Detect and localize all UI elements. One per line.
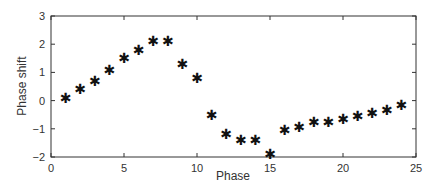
y-tick-label: 1	[39, 66, 45, 78]
x-tick-label: 15	[264, 162, 276, 174]
data-point-marker: ✱	[191, 70, 203, 86]
data-point-marker: ✱	[220, 126, 232, 142]
x-axis-label: Phase	[216, 169, 250, 183]
y-tick-label: 2	[39, 38, 45, 50]
data-point-marker: ✱	[147, 33, 159, 49]
x-tick-label: 20	[337, 162, 349, 174]
y-tick-label: −2	[32, 151, 45, 163]
data-point-marker: ✱	[308, 114, 320, 130]
x-tick-label: 10	[191, 162, 203, 174]
y-tick-label: 0	[39, 95, 45, 107]
data-point-marker: ✱	[133, 42, 145, 58]
data-point-marker: ✱	[89, 73, 101, 89]
data-point-marker: ✱	[396, 97, 408, 113]
data-point-marker: ✱	[264, 146, 276, 162]
data-point-marker: ✱	[206, 107, 218, 123]
y-tick-label: −1	[32, 123, 45, 135]
x-tick-label: 0	[48, 162, 54, 174]
data-point-marker: ✱	[177, 56, 189, 72]
plot-area	[51, 16, 416, 157]
axis-ticks: 0510152025−2−10123	[32, 10, 422, 174]
data-point-marker: ✱	[293, 119, 305, 135]
y-tick-label: 3	[39, 10, 45, 22]
data-points: ✱✱✱✱✱✱✱✱✱✱✱✱✱✱✱✱✱✱✱✱✱✱✱✱	[60, 33, 408, 162]
data-point-marker: ✱	[118, 50, 130, 66]
data-point-marker: ✱	[381, 102, 393, 118]
data-point-marker: ✱	[104, 62, 116, 78]
data-point-marker: ✱	[162, 33, 174, 49]
y-axis-label: Phase shift	[15, 56, 29, 116]
data-point-marker: ✱	[74, 81, 86, 97]
data-point-marker: ✱	[60, 90, 72, 106]
scatter-chart: 0510152025−2−10123 ✱✱✱✱✱✱✱✱✱✱✱✱✱✱✱✱✱✱✱✱✱…	[0, 0, 439, 188]
data-point-marker: ✱	[323, 114, 335, 130]
data-point-marker: ✱	[366, 105, 378, 121]
data-point-marker: ✱	[352, 108, 364, 124]
data-point-marker: ✱	[279, 122, 291, 138]
data-point-marker: ✱	[337, 111, 349, 127]
x-tick-label: 5	[121, 162, 127, 174]
data-point-marker: ✱	[250, 132, 262, 148]
data-point-marker: ✱	[235, 132, 247, 148]
x-tick-label: 25	[410, 162, 422, 174]
